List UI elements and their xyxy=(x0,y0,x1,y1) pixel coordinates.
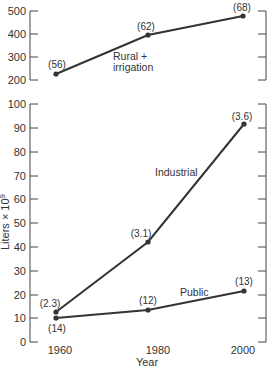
top-panel: 500 400 300 200 (56) (62) (68) Rural + i… xyxy=(8,2,266,86)
point-label: (3.6) xyxy=(232,111,253,122)
x-axis-label: Year xyxy=(136,356,159,368)
industrial-line xyxy=(56,124,244,312)
y-tick-label: 500 xyxy=(8,5,26,17)
data-point xyxy=(240,13,245,18)
data-point xyxy=(53,309,58,314)
point-label: (56) xyxy=(48,59,66,70)
x-tick-label: 1960 xyxy=(48,344,72,356)
point-label: (62) xyxy=(137,21,155,32)
data-point xyxy=(241,288,246,293)
y-tick-label: 60 xyxy=(14,193,26,205)
y-tick-label: 300 xyxy=(8,51,26,63)
svg-text:Liters × 109: Liters × 109 xyxy=(0,193,11,250)
data-point xyxy=(145,32,150,37)
x-tick-label: 1980 xyxy=(146,344,170,356)
y-tick-label: 50 xyxy=(14,217,26,229)
top-left-axis xyxy=(30,11,38,80)
top-right-axis xyxy=(258,11,266,80)
x-tick-label: 2000 xyxy=(231,344,255,356)
y-tick-label: 200 xyxy=(8,74,26,86)
point-label: (2.3) xyxy=(40,298,61,309)
series-label-rural: irrigation xyxy=(113,61,153,73)
y-axis-label: Liters × 109 xyxy=(0,193,11,250)
y-tick-label: 0 xyxy=(20,336,26,348)
bottom-panel: 100 90 80 70 60 50 40 30 20 10 0 Liters … xyxy=(0,98,266,368)
y-tick-label: 40 xyxy=(14,241,26,253)
y-tick-label: 80 xyxy=(14,146,26,158)
y-tick-label: 30 xyxy=(14,265,26,277)
series-label-industrial: Industrial xyxy=(155,166,198,178)
data-point xyxy=(53,71,58,76)
point-label: (13) xyxy=(235,276,253,287)
series-label-public: Public xyxy=(180,286,209,298)
data-point xyxy=(145,239,150,244)
data-point xyxy=(53,315,58,320)
y-tick-label: 20 xyxy=(14,289,26,301)
y-tick-label: 100 xyxy=(8,98,26,110)
y-tick-label: 10 xyxy=(14,312,26,324)
point-label: (68) xyxy=(233,2,251,13)
point-label: (12) xyxy=(139,295,157,306)
y-tick-label: 400 xyxy=(8,28,26,40)
chart: 500 400 300 200 (56) (62) (68) Rural + i… xyxy=(0,0,276,370)
y-tick-label: 70 xyxy=(14,170,26,182)
data-point xyxy=(145,307,150,312)
y-tick-label: 90 xyxy=(14,122,26,134)
point-label: (14) xyxy=(48,323,66,334)
point-label: (3.1) xyxy=(131,228,152,239)
data-point xyxy=(241,121,246,126)
